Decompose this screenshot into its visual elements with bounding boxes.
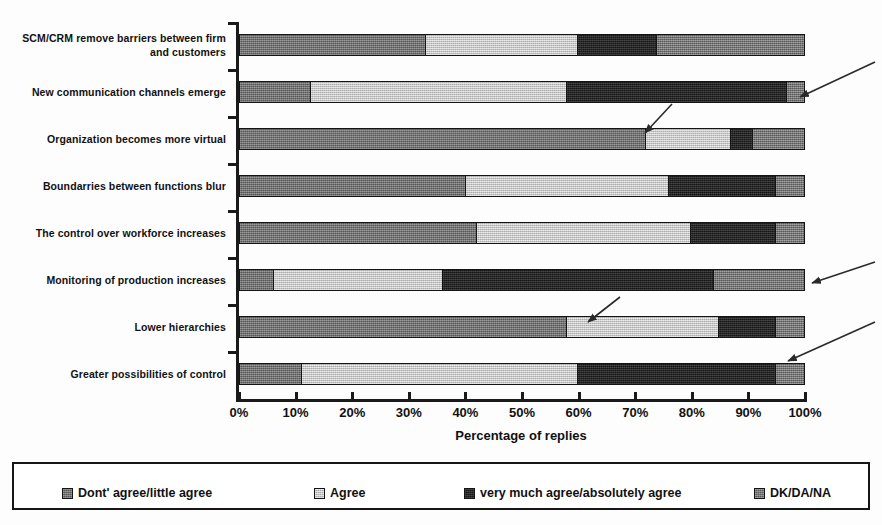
category-label: Organization becomes more virtual xyxy=(8,116,230,163)
stacked-bar[interactable] xyxy=(239,175,805,197)
x-axis-tick xyxy=(521,392,524,402)
stacked-bar[interactable] xyxy=(239,34,805,56)
x-axis-tick xyxy=(408,392,411,402)
x-axis-tick xyxy=(804,392,807,402)
x-axis-tick-label: 90% xyxy=(718,405,778,420)
stacked-bar[interactable] xyxy=(239,316,805,338)
bar-segment[interactable] xyxy=(567,317,719,337)
bar-segment[interactable] xyxy=(578,364,775,384)
x-axis-tick-label: 30% xyxy=(379,405,439,420)
bar-segment[interactable] xyxy=(578,35,657,55)
bar-segment[interactable] xyxy=(657,35,804,55)
legend-item-label: very much agree/absolutely agree xyxy=(480,486,681,500)
x-axis-tick-label: 20% xyxy=(322,405,382,420)
bar-segment[interactable] xyxy=(731,129,754,149)
bar-segment[interactable] xyxy=(443,270,714,290)
x-axis-tick xyxy=(351,392,354,402)
x-axis-title: Percentage of replies xyxy=(236,428,806,443)
x-axis-tick-label: 10% xyxy=(266,405,326,420)
bar-row: Greater possibilities of control xyxy=(0,351,882,398)
plot-area: SCM/CRM remove barriers between firm and… xyxy=(0,0,882,400)
legend-item-label: DK/DA/NA xyxy=(770,486,831,500)
bar-segment[interactable] xyxy=(669,176,776,196)
bar-segment[interactable] xyxy=(274,270,443,290)
x-axis-tick xyxy=(295,392,298,402)
x-axis-tick-label: 100% xyxy=(775,405,835,420)
bar-segment[interactable] xyxy=(776,223,804,243)
bar-segment[interactable] xyxy=(240,223,477,243)
category-label: Greater possibilities of control xyxy=(8,351,230,398)
x-axis-tick-label: 80% xyxy=(662,405,722,420)
category-label: Monitoring of production increases xyxy=(8,257,230,304)
bar-segment[interactable] xyxy=(311,82,568,102)
legend-swatch-dk-da-na xyxy=(754,488,765,499)
x-axis-tick-label: 60% xyxy=(549,405,609,420)
x-axis-tick-label: 70% xyxy=(605,405,665,420)
bar-segment[interactable] xyxy=(714,270,804,290)
bar-segment[interactable] xyxy=(240,317,567,337)
x-axis-tick xyxy=(634,392,637,402)
stacked-bar[interactable] xyxy=(239,222,805,244)
bar-row: Organization becomes more virtual xyxy=(0,116,882,163)
legend: Dont' agree/little agreeAgreevery much a… xyxy=(12,462,870,510)
legend-swatch-very-much-agree xyxy=(464,488,475,499)
x-axis-tick-label: 50% xyxy=(492,405,552,420)
bar-segment[interactable] xyxy=(776,317,804,337)
bar-row: Lower hierarchies xyxy=(0,304,882,351)
legend-item[interactable]: DK/DA/NA xyxy=(754,486,831,500)
bar-row: The control over workforce increases xyxy=(0,210,882,257)
bar-row: Boundarries between functions blur xyxy=(0,163,882,210)
legend-item[interactable]: Agree xyxy=(314,486,365,500)
legend-item-label: Dont' agree/little agree xyxy=(78,486,212,500)
legend-swatch-agree xyxy=(314,488,325,499)
bar-segment[interactable] xyxy=(240,364,302,384)
bar-segment[interactable] xyxy=(240,129,646,149)
bar-segment[interactable] xyxy=(719,317,775,337)
bar-segment[interactable] xyxy=(477,223,691,243)
legend-item-label: Agree xyxy=(330,486,365,500)
bar-segment[interactable] xyxy=(691,223,776,243)
bar-segment[interactable] xyxy=(240,35,426,55)
category-label: New communication channels emerge xyxy=(8,69,230,116)
bar-row: Monitoring of production increases xyxy=(0,257,882,304)
x-axis-tick xyxy=(747,392,750,402)
category-label: The control over workforce increases xyxy=(8,210,230,257)
bar-segment[interactable] xyxy=(776,176,804,196)
category-label: Lower hierarchies xyxy=(8,304,230,351)
stacked-bar[interactable] xyxy=(239,81,805,103)
stacked-bar[interactable] xyxy=(239,363,805,385)
bar-segment[interactable] xyxy=(240,176,466,196)
x-axis-tick xyxy=(464,392,467,402)
bar-segment[interactable] xyxy=(776,364,804,384)
bar-segment[interactable] xyxy=(426,35,578,55)
stacked-bar[interactable] xyxy=(239,269,805,291)
category-label: Boundarries between functions blur xyxy=(8,163,230,210)
stacked-bar-chart: SCM/CRM remove barriers between firm and… xyxy=(0,0,882,525)
legend-item[interactable]: Dont' agree/little agree xyxy=(62,486,212,500)
x-axis-tick xyxy=(578,392,581,402)
bar-row: SCM/CRM remove barriers between firm and… xyxy=(0,22,882,69)
x-axis-tick xyxy=(691,392,694,402)
bar-segment[interactable] xyxy=(240,82,311,102)
bar-segment[interactable] xyxy=(567,82,787,102)
x-axis-tick xyxy=(238,392,241,402)
bar-segment[interactable] xyxy=(240,270,274,290)
bar-segment[interactable] xyxy=(466,176,669,196)
stacked-bar[interactable] xyxy=(239,128,805,150)
category-label: SCM/CRM remove barriers between firm and… xyxy=(8,22,230,69)
bar-segment[interactable] xyxy=(646,129,731,149)
bar-segment[interactable] xyxy=(787,82,804,102)
bar-segment[interactable] xyxy=(302,364,578,384)
bar-segment[interactable] xyxy=(753,129,804,149)
x-axis-tick-label: 40% xyxy=(435,405,495,420)
x-axis-tick-label: 0% xyxy=(209,405,269,420)
legend-item[interactable]: very much agree/absolutely agree xyxy=(464,486,681,500)
legend-swatch-dont-agree xyxy=(62,488,73,499)
bar-row: New communication channels emerge xyxy=(0,69,882,116)
